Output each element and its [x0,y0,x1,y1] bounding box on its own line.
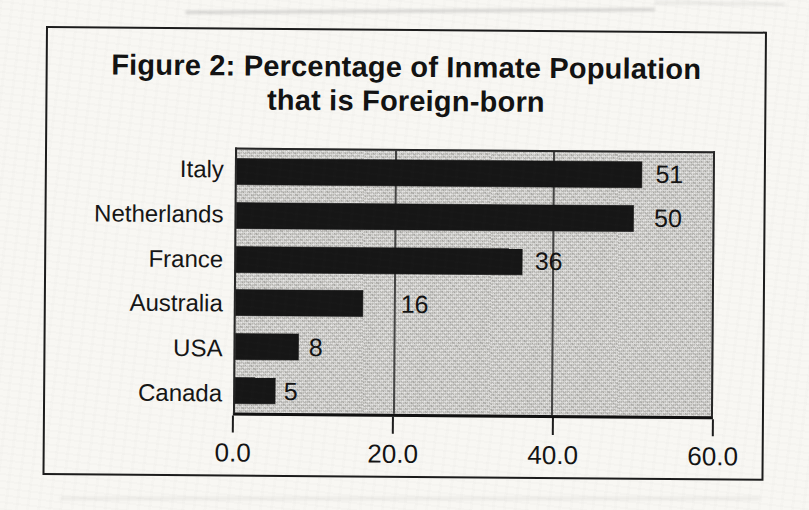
category-label: USA [45,325,233,371]
bar-row: 8 [235,325,711,373]
bar-row: 36 [236,237,712,285]
bar [237,158,642,187]
chart-title: Figure 2: Percentage of Inmate Populatio… [47,48,765,121]
x-axis-tick [712,419,714,436]
x-axis-tick-label: 0.0 [214,437,250,468]
bar-row: 16 [236,281,712,329]
bar [235,334,299,360]
bar [236,202,633,231]
bar-row: 51 [237,150,713,198]
bar-row: 50 [236,193,712,241]
x-axis-tick [232,415,234,432]
value-label: 51 [655,160,683,189]
x-axis-tick [552,418,554,435]
plot-area: 5150361685 [233,147,715,419]
category-label: Canada [45,369,233,415]
bar [236,246,522,274]
category-labels: ItalyNetherlandsFranceAustraliaUSACanada [45,146,235,415]
value-label: 50 [654,204,682,233]
x-axis-tick [392,417,394,434]
category-label: Australia [46,280,234,326]
x-axis-tick-label: 40.0 [527,440,578,471]
bar [235,378,275,404]
chart-title-line2: that is Foreign-born [47,82,764,122]
scan-artifact [185,8,655,15]
chart-title-line1: Figure 2: Percentage of Inmate Populatio… [48,48,765,88]
x-axis-tick-label: 60.0 [687,441,738,472]
category-label: France [46,235,234,281]
x-axis-tick-label: 20.0 [367,439,418,470]
bar [236,290,363,317]
chart-area: ItalyNetherlandsFranceAustraliaUSACanada… [45,146,715,419]
scan-artifact [60,497,760,500]
value-label: 16 [401,290,429,319]
category-label: Netherlands [46,191,234,237]
category-label: Italy [47,146,235,192]
value-label: 8 [309,333,323,362]
bar-rows: 5150361685 [235,150,713,417]
value-label: 36 [535,247,563,276]
x-axis: 0.020.040.060.0 [232,415,712,481]
figure-frame: Figure 2: Percentage of Inmate Populatio… [42,26,767,481]
scan-artifact [655,1,785,6]
value-label: 5 [284,376,298,405]
bar-row: 5 [235,369,711,417]
scanned-page: Figure 2: Percentage of Inmate Populatio… [0,0,809,510]
